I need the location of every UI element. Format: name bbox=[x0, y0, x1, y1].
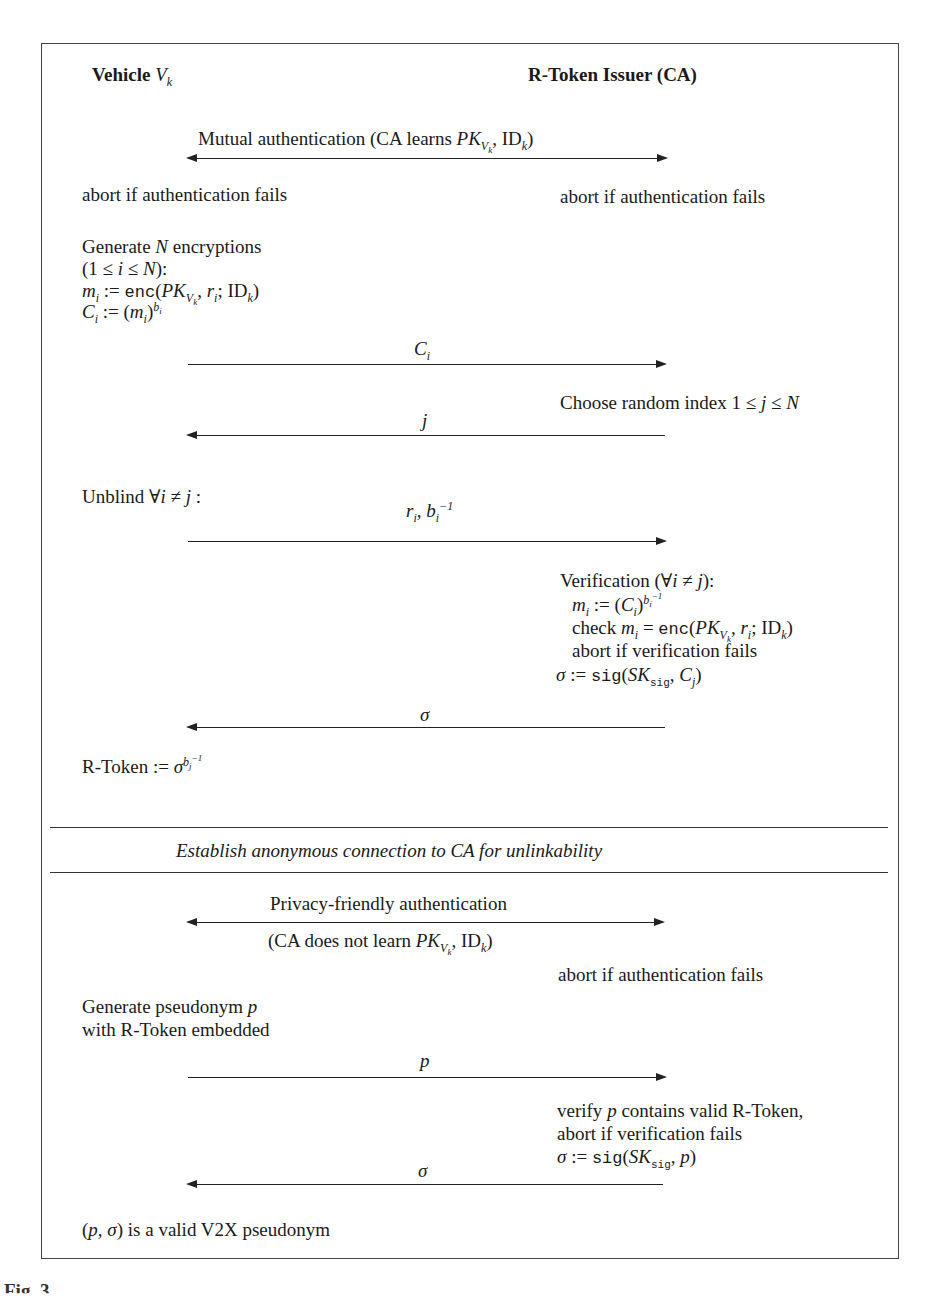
verification-sign: σ := sig(SKsig, Cj) bbox=[556, 664, 702, 688]
separator-bottom bbox=[50, 872, 888, 873]
mutual-auth-label: Mutual authentication (CA learns PKVk, I… bbox=[198, 128, 533, 150]
msg-unblind-label: ri, bi−1 bbox=[406, 500, 453, 522]
rtoken-formula: R-Token := σbj−1 bbox=[82, 756, 202, 778]
msg-p-label: p bbox=[420, 1050, 430, 1072]
verification-unblind: mi := (Ci)bi−1 bbox=[572, 594, 662, 616]
msg-sigma-1-label: σ bbox=[420, 704, 429, 726]
arrow-sigma-2 bbox=[188, 1184, 663, 1185]
anonymous-connection-label: Establish anonymous connection to CA for… bbox=[176, 840, 602, 862]
arrow-ci bbox=[188, 364, 665, 365]
privacy-auth-note: (CA does not learn PKVk, IDk) bbox=[268, 930, 493, 952]
msg-ci-label: Ci bbox=[414, 338, 430, 360]
generate-encryptions: Generate N encryptions bbox=[82, 236, 261, 258]
verification-check: check mi = enc(PKVk, ri; IDk) bbox=[572, 617, 793, 641]
sign-pseudonym: σ := sig(SKsig, p) bbox=[557, 1146, 696, 1170]
verification-title: Verification (∀i ≠ j): bbox=[560, 570, 714, 592]
arrow-sigma-1 bbox=[188, 727, 665, 728]
abort-auth-right-2: abort if authentication fails bbox=[558, 964, 763, 986]
mutual-auth-arrow bbox=[188, 158, 666, 159]
figure-caption-fragment: Fig. 3. bbox=[4, 1280, 54, 1299]
party-ca: R-Token Issuer (CA) bbox=[528, 64, 697, 86]
arrow-p bbox=[188, 1077, 665, 1078]
msg-j-label: j bbox=[422, 410, 427, 432]
arrow-unblind bbox=[188, 541, 665, 542]
msg-sigma-2-label: σ bbox=[418, 1160, 427, 1182]
privacy-auth-label: Privacy-friendly authentication bbox=[270, 893, 507, 915]
verify-pseudonym: verify p contains valid R-Token, bbox=[557, 1100, 803, 1122]
abort-auth-right: abort if authentication fails bbox=[560, 186, 765, 208]
arrow-j bbox=[188, 435, 665, 436]
index-range: (1 ≤ i ≤ N): bbox=[82, 258, 167, 280]
generate-pseudonym: Generate pseudonym p bbox=[82, 996, 257, 1018]
party-vehicle: Vehicle Vk bbox=[92, 64, 172, 86]
unblind-label: Unblind ∀i ≠ j : bbox=[82, 486, 201, 508]
result-label: (p, σ) is a valid V2X pseudonym bbox=[82, 1219, 330, 1241]
rtoken-embedded: with R-Token embedded bbox=[82, 1019, 270, 1041]
choose-index: Choose random index 1 ≤ j ≤ N bbox=[560, 392, 799, 414]
separator-top bbox=[50, 827, 888, 828]
verification-abort: abort if verification fails bbox=[572, 640, 757, 662]
abort-auth-left: abort if authentication fails bbox=[82, 184, 287, 206]
privacy-auth-arrow bbox=[188, 922, 663, 923]
blind-formula: Ci := (mi)bi bbox=[82, 301, 162, 323]
verify-abort: abort if verification fails bbox=[557, 1123, 742, 1145]
